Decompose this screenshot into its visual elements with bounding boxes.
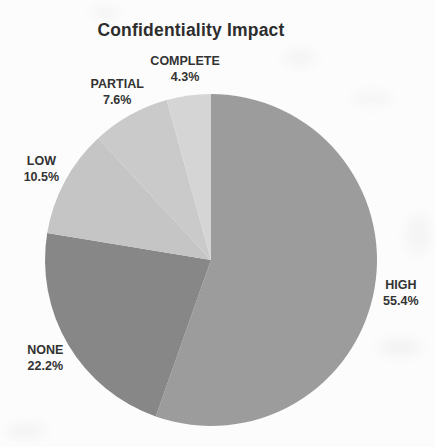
pie-chart-figure: Confidentiality Impact HIGH55.4%NONE22.2…: [0, 0, 435, 447]
pie-chart: [0, 0, 435, 447]
